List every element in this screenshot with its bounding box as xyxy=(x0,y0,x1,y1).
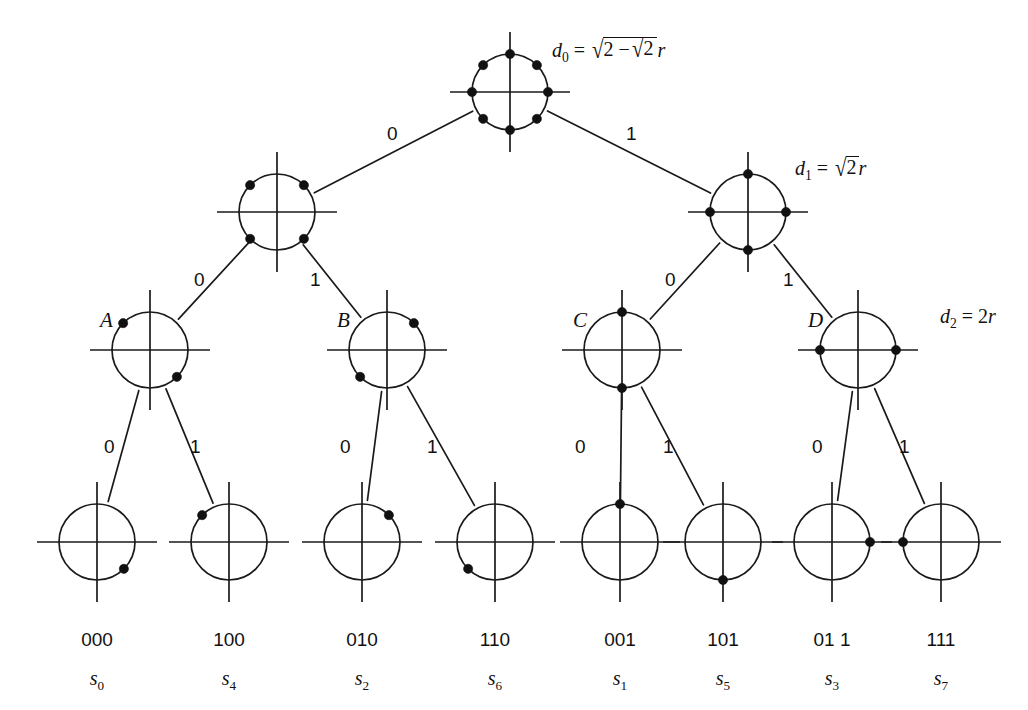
constellation-point xyxy=(299,234,308,243)
constellation-node-leaf-000 xyxy=(37,482,157,602)
constellation-point xyxy=(409,319,418,328)
leaf-bits-leaf-110: 110 xyxy=(445,630,545,649)
leaf-symbol-leaf-000: s0 xyxy=(47,668,147,692)
edge-bit-label-e-root-1: 1 xyxy=(626,124,637,143)
constellation-point xyxy=(718,575,727,584)
constellation-node-leaf-101 xyxy=(663,482,783,602)
constellation-point xyxy=(172,372,181,381)
edge-bit-label-e-D-1: 1 xyxy=(899,437,910,456)
node-letter-b: B xyxy=(337,310,350,331)
tree-edge-leaf-110 xyxy=(408,387,475,506)
tree-nodes xyxy=(37,32,1001,602)
constellation-point xyxy=(815,345,824,354)
edge-bit-label-e-root-0: 0 xyxy=(387,124,398,143)
constellation-node-level1-left xyxy=(217,152,337,272)
constellation-point xyxy=(384,511,393,520)
distance-label-d2: d2 = 2r xyxy=(940,306,996,331)
edge-bit-label-e-B-0: 0 xyxy=(340,437,351,456)
d1-symbol: d1 xyxy=(795,157,812,179)
d0-symbol: d0 xyxy=(552,39,569,61)
set-partition-tree-diagram: d0 = √2 −√2r d1 = √2r d2 = 2r ABCD 01010… xyxy=(0,0,1028,710)
leaf-symbol-leaf-001: s1 xyxy=(570,668,670,692)
leaf-bits-leaf-010: 010 xyxy=(312,630,412,649)
constellation-point xyxy=(464,564,473,573)
node-letter-c: C xyxy=(573,310,587,331)
edge-bit-label-e-C-0: 0 xyxy=(575,437,586,456)
leaf-bits-leaf-000: 000 xyxy=(47,630,147,649)
d0-outer-radical: √2 −√2 xyxy=(590,38,657,61)
constellation-point xyxy=(781,207,790,216)
edge-bit-label-e-l1a-0: 0 xyxy=(194,270,205,289)
constellation-point xyxy=(467,87,476,96)
constellation-point xyxy=(532,61,541,70)
constellation-point xyxy=(898,537,907,546)
leaf-symbol-leaf-110: s6 xyxy=(445,668,545,692)
tree-edge-leaf-010 xyxy=(367,392,381,501)
edge-bit-label-e-A-0: 0 xyxy=(104,437,115,456)
leaf-symbol-leaf-111: s7 xyxy=(891,668,991,692)
edge-bit-label-e-C-1: 1 xyxy=(663,437,674,456)
tree-edge-leaf-011 xyxy=(838,392,853,501)
constellation-point xyxy=(617,383,626,392)
constellation-point xyxy=(479,61,488,70)
tree-edge-l1a-0 xyxy=(178,243,248,319)
leaf-symbol-leaf-100: s4 xyxy=(179,668,279,692)
constellation-node-level1-right xyxy=(688,152,808,272)
distance-label-d0: d0 = √2 −√2r xyxy=(552,38,665,65)
constellation-point xyxy=(743,169,752,178)
constellation-node-leaf-011 xyxy=(772,482,892,602)
constellation-point xyxy=(119,319,128,328)
d1-radical: √2 xyxy=(833,157,859,179)
node-letter-d: D xyxy=(808,310,823,331)
constellation-point xyxy=(543,87,552,96)
node-letter-a: A xyxy=(100,310,113,331)
edge-bit-label-e-B-1: 1 xyxy=(427,437,438,456)
constellation-point xyxy=(891,345,900,354)
leaf-symbol-leaf-101: s5 xyxy=(673,668,773,692)
leaf-bits-leaf-101: 101 xyxy=(673,630,773,649)
constellation-point xyxy=(299,181,308,190)
constellation-point xyxy=(615,499,624,508)
constellation-point xyxy=(198,511,207,520)
edge-bit-label-e-D-0: 0 xyxy=(812,437,823,456)
constellation-node-leaf-111 xyxy=(881,482,1001,602)
constellation-point xyxy=(743,245,752,254)
edge-bit-label-e-l1b-1: 1 xyxy=(783,270,794,289)
constellation-point xyxy=(119,564,128,573)
constellation-point xyxy=(505,125,514,134)
tree-graphics xyxy=(0,0,1028,710)
constellation-node-leaf-100 xyxy=(169,482,289,602)
tree-edge-l1b-0 xyxy=(650,243,719,319)
constellation-point xyxy=(532,114,541,123)
edge-bit-label-e-l1a-1: 1 xyxy=(310,270,321,289)
constellation-node-leaf-110 xyxy=(435,482,555,602)
leaf-symbol-leaf-011: s3 xyxy=(782,668,882,692)
constellation-point xyxy=(865,537,874,546)
constellation-point xyxy=(246,181,255,190)
constellation-point xyxy=(246,234,255,243)
constellation-point xyxy=(505,49,514,58)
leaf-bits-leaf-111: 111 xyxy=(891,630,991,649)
constellation-node-leaf-001 xyxy=(560,482,680,602)
constellation-point xyxy=(356,372,365,381)
edge-bit-label-e-A-1: 1 xyxy=(190,437,201,456)
constellation-point xyxy=(617,307,626,316)
leaf-symbol-leaf-010: s2 xyxy=(312,668,412,692)
leaf-bits-leaf-011: 01 1 xyxy=(782,630,882,649)
constellation-point xyxy=(479,114,488,123)
leaf-bits-leaf-100: 100 xyxy=(179,630,279,649)
distance-label-d1: d1 = √2r xyxy=(795,157,866,183)
leaf-bits-leaf-001: 001 xyxy=(570,630,670,649)
constellation-node-leaf-010 xyxy=(302,482,422,602)
constellation-point xyxy=(705,207,714,216)
d2-symbol: d2 xyxy=(940,305,957,327)
edge-bit-label-e-l1b-0: 0 xyxy=(665,270,676,289)
